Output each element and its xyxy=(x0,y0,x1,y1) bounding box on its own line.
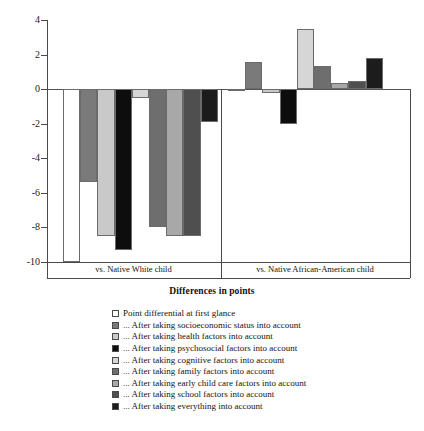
legend-swatch xyxy=(112,403,119,410)
y-axis-tick-label: -6 xyxy=(10,188,40,198)
y-axis-tick-label: 2 xyxy=(10,50,40,60)
group-label: vs. Native White child xyxy=(47,265,220,274)
bar xyxy=(245,62,262,89)
y-axis-tick-label: -4 xyxy=(10,153,40,163)
legend-item: Point differential at first glance xyxy=(112,308,412,320)
legend-item: ... After taking health factors into acc… xyxy=(112,331,412,343)
y-axis-tick-label: 0 xyxy=(10,84,40,94)
legend-swatch xyxy=(112,368,119,375)
legend: Point differential at first glance... Af… xyxy=(112,308,412,412)
bar xyxy=(201,89,218,122)
group-bracket-baseline xyxy=(47,278,410,279)
y-axis-tick-label: 4 xyxy=(10,15,40,25)
bar xyxy=(366,58,383,89)
bar xyxy=(115,89,132,250)
legend-label: ... After taking psychosocial factors in… xyxy=(123,344,297,353)
bar xyxy=(228,89,245,91)
legend-swatch xyxy=(112,357,119,364)
legend-swatch xyxy=(112,380,119,387)
y-axis-tick-label: -10 xyxy=(10,257,40,267)
legend-label: ... After taking early child care factor… xyxy=(123,379,306,388)
legend-item: ... After taking psychosocial factors in… xyxy=(112,343,412,355)
group-label: vs. Native African-American child xyxy=(220,265,410,274)
legend-label: ... After taking everything into account xyxy=(123,402,262,411)
legend-swatch xyxy=(112,333,119,340)
y-axis-tick-label: -8 xyxy=(10,222,40,232)
legend-swatch xyxy=(112,322,119,329)
legend-label: ... After taking socioeconomic status in… xyxy=(123,321,301,330)
bar xyxy=(348,81,365,90)
y-axis-tick xyxy=(41,20,47,21)
bar xyxy=(132,89,149,98)
y-axis-tick-label: -2 xyxy=(10,119,40,129)
bar xyxy=(166,89,183,236)
bar xyxy=(331,83,348,89)
bar xyxy=(314,66,331,89)
group-separator xyxy=(47,89,48,278)
legend-swatch xyxy=(112,345,119,352)
bar xyxy=(280,89,297,124)
x-axis-line xyxy=(47,262,410,263)
legend-item: ... After taking family factors into acc… xyxy=(112,366,412,378)
bar xyxy=(183,89,200,236)
group-separator xyxy=(410,89,411,278)
x-axis-title: Differences in points xyxy=(0,286,424,296)
bar xyxy=(80,89,97,182)
bar xyxy=(63,89,80,262)
legend-swatch xyxy=(112,310,119,317)
bar xyxy=(97,89,114,236)
bar xyxy=(262,89,279,92)
legend-item: ... After taking cognitive factors into … xyxy=(112,354,412,366)
bar xyxy=(149,89,166,227)
bar xyxy=(297,29,314,90)
legend-label: ... After taking health factors into acc… xyxy=(123,332,273,341)
legend-item: ... After taking everything into account xyxy=(112,401,412,413)
legend-swatch xyxy=(112,391,119,398)
legend-item: ... After taking school factors into acc… xyxy=(112,389,412,401)
legend-label: ... After taking school factors into acc… xyxy=(123,390,274,399)
legend-label: ... After taking cognitive factors into … xyxy=(123,356,284,365)
legend-item: ... After taking early child care factor… xyxy=(112,378,412,390)
bar-chart: 420-2-4-6-8-10 vs. Native White childvs.… xyxy=(0,0,424,431)
legend-label: Point differential at first glance xyxy=(123,309,235,318)
legend-item: ... After taking socioeconomic status in… xyxy=(112,320,412,332)
legend-label: ... After taking family factors into acc… xyxy=(123,367,274,376)
y-axis-tick xyxy=(41,55,47,56)
group-separator xyxy=(221,89,222,278)
